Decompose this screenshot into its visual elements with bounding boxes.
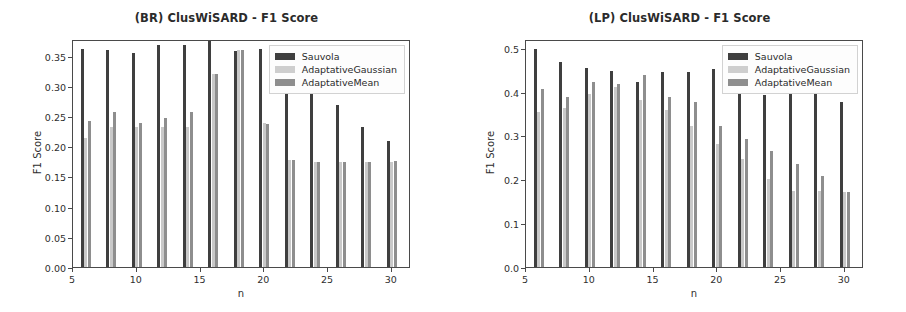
legend-label: Sauvola <box>755 51 793 62</box>
legend-label: AdaptativeMean <box>302 77 379 88</box>
bar-adaptativegaussian-n24 <box>767 179 770 267</box>
legend-label: AdaptativeGaussian <box>755 64 850 75</box>
bar-sauvola-n12 <box>157 45 160 267</box>
panel-lp: (LP) ClusWiSARD - F1 Score F1 Score n Sa… <box>453 0 906 312</box>
bar-adaptativemean-n22 <box>292 160 295 267</box>
x-axis-title-lp: n <box>525 288 863 299</box>
y-tick <box>68 208 72 209</box>
bar-adaptativemean-n26 <box>796 164 799 267</box>
y-tick-label: 0.20 <box>24 142 66 153</box>
bar-sauvola-n16 <box>661 72 664 267</box>
bar-sauvola-n18 <box>687 72 690 267</box>
legend-item-sauvola: Sauvola <box>728 50 850 63</box>
x-tick <box>136 268 137 272</box>
bar-adaptativemean-n16 <box>215 74 218 267</box>
bar-sauvola-n30 <box>840 102 843 267</box>
bar-adaptativegaussian-n22 <box>741 159 744 267</box>
bar-sauvola-n30 <box>387 141 390 267</box>
x-tick <box>589 268 590 272</box>
bar-sauvola-n28 <box>814 94 817 267</box>
y-tick-label: 0.25 <box>24 112 66 123</box>
y-tick-label: 0.3 <box>477 131 519 142</box>
y-tick-label: 0.0 <box>477 263 519 274</box>
bar-sauvola-n10 <box>585 68 588 267</box>
y-tick-label: 0.5 <box>477 43 519 54</box>
bar-sauvola-n24 <box>310 89 313 267</box>
y-tick-label: 0.1 <box>477 219 519 230</box>
x-axis-title-br: n <box>72 288 410 299</box>
bar-adaptativemean-n8 <box>566 97 569 267</box>
y-tick <box>521 49 525 50</box>
bar-adaptativegaussian-n18 <box>690 126 693 267</box>
legend-item-adaptativegaussian: AdaptativeGaussian <box>275 63 397 76</box>
x-tick <box>72 268 73 272</box>
bar-adaptativegaussian-n28 <box>365 162 368 267</box>
bar-adaptativegaussian-n22 <box>288 160 291 267</box>
bar-sauvola-n26 <box>789 94 792 267</box>
y-tick-label: 0.4 <box>477 87 519 98</box>
figure-two-panel-bar-charts: (BR) ClusWiSARD - F1 Score F1 Score n Sa… <box>0 0 906 312</box>
y-tick <box>68 147 72 148</box>
chart-title-br: (BR) ClusWiSARD - F1 Score <box>0 11 453 25</box>
panel-br: (BR) ClusWiSARD - F1 Score F1 Score n Sa… <box>0 0 453 312</box>
bar-sauvola-n28 <box>361 127 364 267</box>
bar-sauvola-n18 <box>234 51 237 267</box>
x-tick-label: 10 <box>583 274 595 285</box>
x-tick <box>780 268 781 272</box>
x-tick-label: 15 <box>647 274 659 285</box>
bar-adaptativemean-n28 <box>368 162 371 267</box>
bar-adaptativemean-n16 <box>668 97 671 267</box>
chart-title-lp: (LP) ClusWiSARD - F1 Score <box>453 11 906 25</box>
bar-sauvola-n6 <box>81 49 84 267</box>
y-tick-label: 0.15 <box>24 172 66 183</box>
legend-item-adaptativegaussian: AdaptativeGaussian <box>728 63 850 76</box>
legend-swatch-icon <box>728 66 748 73</box>
bar-adaptativemean-n30 <box>847 192 850 267</box>
y-tick-label: 0.05 <box>24 232 66 243</box>
bar-adaptativemean-n18 <box>694 102 697 267</box>
bar-adaptativegaussian-n24 <box>314 162 317 267</box>
bar-adaptativemean-n12 <box>617 84 620 267</box>
y-tick-label: 0.10 <box>24 202 66 213</box>
bar-adaptativegaussian-n30 <box>843 192 846 267</box>
bar-adaptativegaussian-n14 <box>639 100 642 267</box>
x-tick-label: 20 <box>710 274 722 285</box>
bar-adaptativemean-n20 <box>719 126 722 267</box>
bar-adaptativemean-n10 <box>139 123 142 267</box>
x-tick <box>525 268 526 272</box>
bar-adaptativegaussian-n18 <box>237 50 240 267</box>
y-tick <box>521 93 525 94</box>
y-tick <box>68 87 72 88</box>
x-tick-label: 30 <box>838 274 850 285</box>
x-tick <box>653 268 654 272</box>
plot-frame-br: SauvolaAdaptativeGaussianAdaptativeMean <box>72 40 410 268</box>
legend-swatch-icon <box>275 53 295 60</box>
x-tick-label: 25 <box>774 274 786 285</box>
x-tick-label: 5 <box>522 274 528 285</box>
bar-sauvola-n8 <box>106 50 109 267</box>
bar-sauvola-n22 <box>285 86 288 267</box>
y-tick-label: 0.30 <box>24 81 66 92</box>
bar-sauvola-n6 <box>534 49 537 267</box>
x-tick-label: 5 <box>69 274 75 285</box>
bar-adaptativemean-n28 <box>821 176 824 267</box>
bar-sauvola-n8 <box>559 62 562 267</box>
bar-sauvola-n24 <box>763 95 766 267</box>
bar-adaptativemean-n24 <box>770 151 773 267</box>
bar-sauvola-n14 <box>636 82 639 267</box>
x-tick <box>391 268 392 272</box>
legend-item-adaptativemean: AdaptativeMean <box>728 76 850 89</box>
x-tick-label: 10 <box>130 274 142 285</box>
bar-adaptativegaussian-n8 <box>110 127 113 267</box>
legend-item-adaptativemean: AdaptativeMean <box>275 76 397 89</box>
x-tick-label: 20 <box>257 274 269 285</box>
bar-adaptativegaussian-n26 <box>792 191 795 267</box>
bar-sauvola-n12 <box>610 71 613 267</box>
legend-label: AdaptativeGaussian <box>302 64 397 75</box>
bar-adaptativemean-n14 <box>643 75 646 267</box>
x-tick <box>844 268 845 272</box>
bar-adaptativegaussian-n28 <box>818 191 821 267</box>
x-tick-label: 30 <box>385 274 397 285</box>
bar-sauvola-n20 <box>712 69 715 267</box>
bar-adaptativemean-n6 <box>88 121 91 267</box>
